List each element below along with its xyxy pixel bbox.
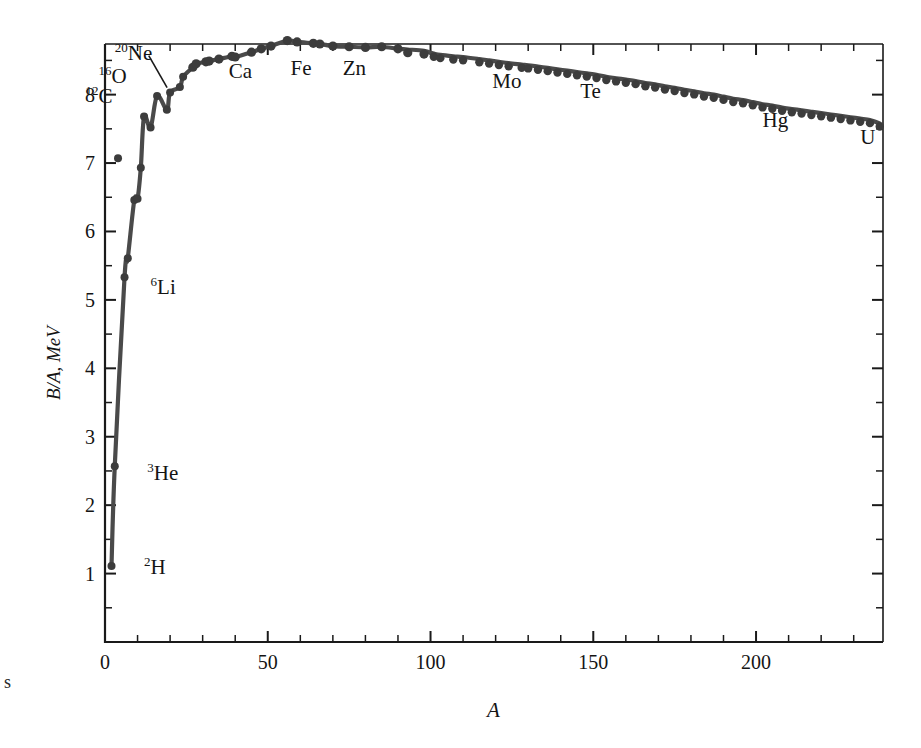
x-axis-title: A (487, 700, 500, 721)
mass-number: 12 (85, 83, 98, 98)
element-symbol: He (154, 461, 179, 485)
isotope-label-te: Te (580, 81, 601, 102)
y-axis-tick-label: 7 (69, 153, 95, 173)
y-axis-title: B/A, MeV (44, 326, 63, 400)
y-axis-tick-label: 4 (69, 358, 95, 378)
isotope-label-li: 6Li (151, 277, 176, 298)
x-axis-tick-label: 150 (553, 652, 633, 672)
y-axis-tick-label: 1 (69, 564, 95, 584)
element-symbol: H (151, 555, 166, 579)
x-axis-tick-label: 50 (228, 652, 308, 672)
element-symbol: C (98, 84, 112, 108)
isotope-label-u: U (860, 127, 875, 148)
y-axis-tick-label: 3 (69, 427, 95, 447)
y-axis-tick-label: 6 (69, 221, 95, 241)
x-axis-tick-label: 0 (65, 652, 145, 672)
mass-number: 16 (98, 63, 111, 78)
x-axis-tick-label: 100 (391, 652, 471, 672)
mass-number: 20 (115, 40, 128, 55)
isotope-label-h: 2H (144, 557, 166, 578)
isotope-label-fe: Fe (291, 58, 312, 79)
isotope-label-zn: Zn (343, 58, 366, 79)
isotope-label-mo: Mo (492, 71, 521, 92)
isotope-label-he: 3He (147, 463, 178, 484)
edge-caption-fragment: s (4, 673, 11, 691)
element-symbol: Li (157, 275, 176, 299)
binding-energy-figure: 12345678 050100150200 2H3He6Li12C16O20Ne… (0, 0, 921, 748)
axis-frame (105, 44, 883, 642)
isotope-label-ca: Ca (229, 61, 252, 82)
axis-ticks (105, 44, 883, 642)
y-axis-tick-label: 5 (69, 290, 95, 310)
isotope-label-hg: Hg (763, 110, 789, 131)
y-axis-tick-label: 2 (69, 495, 95, 515)
element-symbol: O (112, 64, 127, 88)
element-symbol: Ne (128, 41, 153, 65)
x-axis-tick-label: 200 (716, 652, 796, 672)
isotope-label-o: 16O (98, 66, 126, 87)
isotope-label-ne: 20Ne (115, 43, 153, 64)
isotope-label-c: 12C (85, 86, 112, 107)
